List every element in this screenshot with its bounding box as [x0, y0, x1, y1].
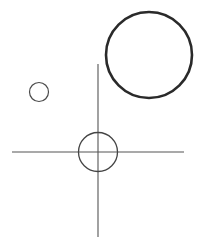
- background: [0, 0, 201, 244]
- diagram-canvas: [0, 0, 201, 244]
